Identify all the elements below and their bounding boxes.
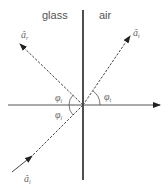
- incident-ray-tail: [12, 156, 32, 172]
- glass-label: glass: [42, 9, 68, 21]
- reflected-ray-label: âr: [21, 29, 29, 41]
- air-label: air: [99, 9, 112, 21]
- refraction-diagram: glass air âr ât âi φi φi φt: [0, 0, 168, 188]
- reflected-angle-label: φi: [55, 92, 63, 104]
- transmitted-ray-label: ât: [133, 27, 140, 39]
- transmitted-angle-label: φt: [104, 91, 112, 103]
- reflected-ray: [20, 44, 83, 105]
- transmitted-angle-arc: [93, 91, 100, 105]
- reflected-angle-arc: [69, 95, 73, 105]
- incident-angle-label: φi: [55, 109, 63, 121]
- incident-angle-arc: [69, 105, 73, 115]
- incident-ray-label: âi: [24, 173, 31, 185]
